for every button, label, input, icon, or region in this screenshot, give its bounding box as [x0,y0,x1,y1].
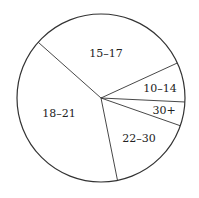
slice-label: 15–17 [89,47,123,60]
slice-label: 18–21 [42,107,76,120]
slice-label: 10–14 [143,82,177,95]
pie-chart: 15–1710–1430+22–3018–21 [0,0,199,198]
slice-label: 30+ [152,104,175,117]
slice-label: 22–30 [122,132,156,145]
